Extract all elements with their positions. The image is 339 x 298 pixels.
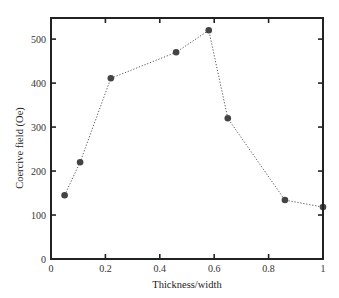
data-point-marker: [225, 115, 232, 122]
x-tick-label: 0.2: [99, 263, 112, 274]
y-axis-label: Coercive field (Oe): [14, 107, 26, 189]
data-point-marker: [77, 159, 84, 166]
y-tick-label: 300: [31, 122, 46, 133]
plot-frame: [51, 18, 323, 259]
x-tick-label: 0.8: [262, 263, 275, 274]
axis-tick-labels: 00.20.40.60.810100200300400500: [31, 34, 326, 274]
data-point-marker: [282, 197, 289, 204]
y-tick-label: 200: [31, 166, 46, 177]
x-tick-label: 0.4: [154, 263, 167, 274]
axis-ticks: [51, 18, 323, 259]
y-tick-label: 400: [31, 78, 46, 89]
data-point-marker: [173, 49, 180, 56]
y-tick-label: 0: [41, 254, 46, 265]
data-point-marker: [61, 192, 68, 199]
x-tick-label: 0: [49, 263, 54, 274]
y-tick-label: 500: [31, 34, 46, 45]
data-point-marker: [205, 27, 212, 34]
coercive-field-chart: 00.20.40.60.810100200300400500 Thickness…: [0, 0, 339, 298]
x-axis-label: Thickness/width: [152, 279, 222, 290]
data-line: [65, 30, 323, 207]
data-point-marker: [108, 75, 115, 82]
x-tick-label: 0.6: [208, 263, 221, 274]
y-tick-label: 100: [31, 210, 46, 221]
x-tick-label: 1: [321, 263, 326, 274]
data-markers: [61, 27, 326, 210]
